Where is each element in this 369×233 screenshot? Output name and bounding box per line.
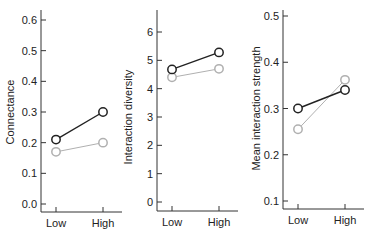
y-tick-label: 3 bbox=[147, 111, 153, 123]
y-axis-title: Interaction diversity bbox=[122, 69, 134, 164]
y-tick-label: 6 bbox=[147, 26, 153, 38]
chart-figure: 0.00.10.20.30.40.50.6LowHighConnectance0… bbox=[0, 0, 369, 233]
x-tick-label: High bbox=[92, 217, 115, 229]
chart-panel-1: 0.00.10.20.30.40.50.6LowHighConnectance bbox=[4, 10, 122, 229]
x-tick-label: Low bbox=[46, 217, 66, 229]
x-tick-label: Low bbox=[162, 216, 182, 228]
chart-panel-2: 0123456LowHighInteraction diversity bbox=[122, 10, 238, 228]
y-tick-label: 2 bbox=[147, 139, 153, 151]
series-line-gray bbox=[56, 143, 103, 152]
y-tick-label: 0.4 bbox=[264, 56, 279, 68]
y-tick-label: 0.1 bbox=[264, 195, 279, 207]
series-line-black bbox=[56, 112, 103, 140]
data-point-gray bbox=[52, 148, 60, 156]
y-tick-label: 0.3 bbox=[264, 103, 279, 115]
x-tick-label: Low bbox=[288, 214, 308, 226]
y-tick-label: 0.0 bbox=[22, 198, 37, 210]
y-tick-label: 0.5 bbox=[264, 10, 279, 22]
y-axis-title: Mean interaction strength bbox=[250, 46, 262, 170]
x-tick-label: High bbox=[208, 216, 231, 228]
y-tick-label: 0.5 bbox=[22, 45, 37, 57]
y-tick-label: 1 bbox=[147, 168, 153, 180]
y-tick-label: 0.1 bbox=[22, 167, 37, 179]
y-tick-label: 0.6 bbox=[22, 14, 37, 26]
data-point-black bbox=[168, 65, 176, 73]
series-line-black bbox=[172, 52, 219, 69]
series-line-black bbox=[298, 90, 345, 109]
series-line-gray bbox=[172, 69, 219, 78]
y-tick-label: 4 bbox=[147, 83, 153, 95]
y-tick-label: 0.3 bbox=[22, 106, 37, 118]
data-point-black bbox=[215, 48, 223, 56]
y-tick-label: 0 bbox=[147, 196, 153, 208]
data-point-black bbox=[52, 135, 60, 143]
y-tick-label: 0.2 bbox=[264, 149, 279, 161]
x-tick-label: High bbox=[334, 214, 357, 226]
data-point-gray bbox=[294, 125, 302, 133]
data-point-gray bbox=[168, 73, 176, 81]
chart-panel-3: 0.10.20.30.40.5LowHighMean interaction s… bbox=[250, 10, 364, 226]
data-point-gray bbox=[341, 76, 349, 84]
series-line-gray bbox=[298, 80, 345, 129]
y-axis-title: Connectance bbox=[4, 80, 16, 145]
y-tick-label: 0.4 bbox=[22, 75, 37, 87]
data-point-black bbox=[341, 86, 349, 94]
data-point-black bbox=[99, 108, 107, 116]
data-point-black bbox=[294, 104, 302, 112]
data-point-gray bbox=[215, 65, 223, 73]
y-tick-label: 0.2 bbox=[22, 137, 37, 149]
y-tick-label: 5 bbox=[147, 54, 153, 66]
data-point-gray bbox=[99, 138, 107, 146]
